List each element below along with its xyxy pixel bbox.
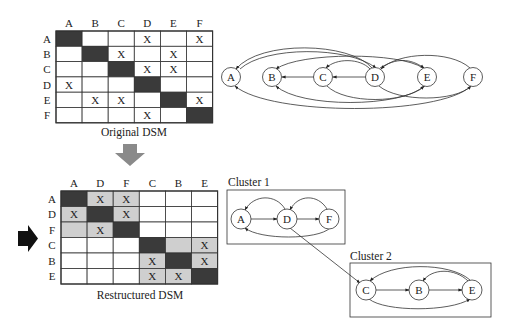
original-dsm-col-header: D bbox=[143, 17, 151, 29]
restructured-dsm-mark: X bbox=[96, 224, 104, 236]
node-label: F bbox=[326, 213, 332, 225]
original-dsm-cell bbox=[160, 108, 186, 123]
restructured-dsm-col-header: A bbox=[70, 177, 78, 189]
restructured-dsm-cell bbox=[113, 253, 139, 269]
node-label: F bbox=[470, 71, 476, 83]
restructured-dsm-col-header: C bbox=[149, 177, 156, 189]
node-label: B bbox=[268, 71, 275, 83]
node-label: A bbox=[237, 213, 245, 225]
restructured-dsm-mark: X bbox=[148, 270, 156, 282]
original-dsm-row-header: C bbox=[43, 63, 50, 75]
restructured-dsm-row-header: A bbox=[48, 193, 56, 205]
restructured-dsm-cell bbox=[87, 269, 113, 285]
edge-c2-e-b bbox=[423, 271, 468, 281]
restructured-dsm-cell bbox=[139, 222, 165, 238]
original-dsm-mark: X bbox=[65, 79, 73, 91]
edge-c1-d-a bbox=[245, 198, 285, 210]
edge-c2-e-c bbox=[370, 267, 470, 281]
restructured-dsm-matrix: ADFCBEAXXDXXFXCXBXXEXX bbox=[48, 177, 218, 284]
restructured-dsm-cell bbox=[61, 222, 87, 238]
restructured-dsm-cell bbox=[61, 238, 87, 254]
right-arrow-icon bbox=[18, 225, 38, 252]
edge-e-b-lower bbox=[276, 86, 425, 103]
edge-d-a-upper bbox=[236, 48, 372, 69]
original-dsm-row-header: E bbox=[44, 94, 51, 106]
edge-d-c-upper bbox=[326, 61, 370, 69]
restructured-dsm-cell bbox=[165, 207, 191, 223]
original-dsm-cell bbox=[108, 31, 134, 46]
node-label: E bbox=[424, 71, 431, 83]
edge-c1-f-d bbox=[290, 198, 327, 210]
node-label: B bbox=[415, 284, 422, 296]
original-dsm-col-header: F bbox=[196, 17, 202, 29]
original-dsm-cell bbox=[160, 31, 186, 46]
original-dsm-cell bbox=[108, 77, 134, 92]
node-label: D bbox=[283, 213, 291, 225]
original-dsm-mark: X bbox=[117, 48, 125, 60]
restructured-dsm-cell bbox=[192, 191, 218, 207]
cluster2-label: Cluster 2 bbox=[350, 250, 392, 262]
restructured-dsm-cell bbox=[192, 222, 218, 238]
original-dsm-row-header: D bbox=[43, 79, 51, 91]
original-dsm-mark: X bbox=[196, 33, 204, 45]
original-dsm-mark: X bbox=[169, 48, 177, 60]
original-dsm-cell bbox=[108, 108, 134, 123]
edge-c2-c-e bbox=[369, 299, 470, 309]
restructured-dsm-cell bbox=[61, 269, 87, 285]
original-dsm-col-header: E bbox=[170, 17, 177, 29]
restructured-dsm-mark: X bbox=[122, 208, 130, 220]
restructured-dsm-col-header: E bbox=[201, 177, 208, 189]
original-dsm-diagonal-cell bbox=[160, 92, 186, 107]
restructured-dsm-diagonal-cell bbox=[165, 253, 191, 269]
restructured-dsm-cell bbox=[165, 222, 191, 238]
original-dsm-mark: X bbox=[143, 109, 151, 121]
original-dsm-row-header: B bbox=[43, 48, 50, 60]
restructured-dsm-cell bbox=[192, 207, 218, 223]
original-dsm-diagonal-cell bbox=[82, 46, 108, 61]
original-dsm-cell bbox=[56, 92, 82, 107]
restructured-dsm-mark: X bbox=[201, 239, 209, 251]
node-label: A bbox=[227, 71, 235, 83]
node-label: C bbox=[362, 284, 369, 296]
restructured-dsm-diagonal-cell bbox=[61, 191, 87, 207]
restructured-dsm-caption: Restructured DSM bbox=[97, 289, 184, 301]
original-dsm-mark: X bbox=[117, 94, 125, 106]
node-label: E bbox=[469, 284, 476, 296]
edge-e-b-upper bbox=[276, 56, 423, 69]
original-dsm-cell bbox=[187, 62, 213, 77]
down-arrow-icon bbox=[115, 144, 145, 166]
restructured-dsm-col-header: F bbox=[123, 177, 129, 189]
restructured-dsm-cell bbox=[113, 238, 139, 254]
restructured-dsm-diagonal-cell bbox=[139, 238, 165, 254]
original-dsm-col-header: A bbox=[65, 17, 73, 29]
restructured-dsm-diagonal-cell bbox=[192, 269, 218, 285]
original-dsm-caption: Original DSM bbox=[101, 126, 167, 139]
restructured-dsm-mark: X bbox=[201, 255, 209, 267]
restructured-dsm-cell bbox=[61, 253, 87, 269]
restructured-dsm-cell bbox=[113, 269, 139, 285]
restructured-dsm-cell bbox=[139, 191, 165, 207]
original-dsm-mark: X bbox=[143, 63, 151, 75]
original-dsm-diagonal-cell bbox=[187, 108, 213, 123]
original-dsm-row-header: A bbox=[43, 33, 51, 45]
restructured-dsm-cell bbox=[139, 207, 165, 223]
original-dsm-row-header: F bbox=[44, 109, 50, 121]
original-dsm-diagonal-cell bbox=[56, 31, 82, 46]
restructured-dsm-row-header: D bbox=[48, 208, 56, 220]
restructured-dsm-row-header: E bbox=[49, 270, 56, 282]
node-label: C bbox=[319, 71, 326, 83]
original-dsm-cell bbox=[56, 108, 82, 123]
dsm-diagram: ABCDEFAXXBXXCXXDXEXXXFX Original DSM ADF… bbox=[0, 0, 508, 330]
edge-f-d-upper bbox=[381, 55, 470, 69]
original-dsm-cell bbox=[82, 31, 108, 46]
original-dsm-cell bbox=[82, 62, 108, 77]
restructured-dsm-cell bbox=[165, 191, 191, 207]
original-dsm-mark: X bbox=[143, 33, 151, 45]
original-dsm-col-header: C bbox=[118, 17, 125, 29]
restructured-dsm-diagonal-cell bbox=[113, 222, 139, 238]
cluster1-label: Cluster 1 bbox=[228, 176, 270, 188]
restructured-dsm-diagonal-cell bbox=[87, 207, 113, 223]
original-dsm-diagonal-cell bbox=[134, 77, 160, 92]
original-dsm-matrix: ABCDEFAXXBXXCXXDXEXXXFX bbox=[43, 17, 213, 123]
restructured-dsm-mark: X bbox=[96, 193, 104, 205]
